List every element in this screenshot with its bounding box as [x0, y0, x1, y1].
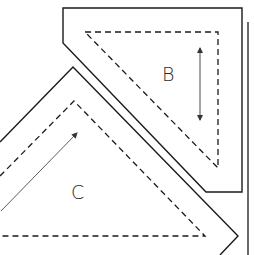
piece-b: B: [63, 8, 242, 192]
piece-c: C: [0, 67, 238, 255]
piece-c-cut-line: [0, 67, 238, 255]
piece-b-label: B: [162, 63, 174, 85]
piece-c-seam-line: [0, 101, 205, 236]
pattern-diagram: B C: [0, 0, 254, 255]
piece-c-label: C: [71, 181, 84, 203]
piece-c-grainline-arrow-icon: [1, 133, 77, 211]
